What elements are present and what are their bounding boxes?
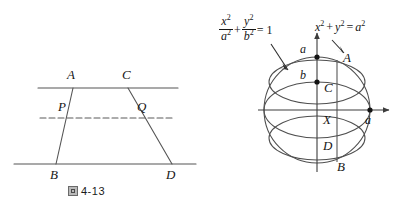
plus-sign-ellipse: + [233, 24, 242, 36]
label-D: D [166, 168, 175, 181]
caption-figure-4-13: 4-13 [68, 185, 105, 197]
label-b: b [300, 69, 306, 81]
label-a-right: a [365, 114, 371, 126]
circle-equation-formula: x2+y2=a2 [314, 20, 366, 33]
circle-eq-plus: + [325, 21, 334, 33]
circle-eq-y: y2 [334, 21, 345, 33]
equals-one-ellipse: = 1 [256, 24, 274, 36]
label-B: B [50, 168, 58, 181]
right-leg-CD [128, 88, 172, 164]
denominator-b2: b2 [242, 30, 256, 44]
circle-eq-a: a2 [354, 21, 366, 33]
label-B-sphere: B [337, 160, 345, 173]
label-D-sphere: D [323, 139, 332, 152]
caption-4-13-text: 4-13 [81, 185, 105, 197]
label-C: C [122, 68, 131, 81]
label-A: A [67, 68, 75, 81]
point-b [314, 79, 319, 84]
label-A-sphere: A [343, 51, 351, 64]
ellipse-equation-formula: x2 a2 + y2 b2 = 1 [219, 16, 274, 45]
figure-4-14: x2 a2 + y2 b2 = 1 x2+y2=a2 a b A C X D B… [201, 0, 402, 217]
label-C-sphere: C [324, 81, 333, 94]
circle-eq-x: x2 [314, 21, 325, 33]
label-Q: Q [137, 100, 146, 113]
circle-eq-equals: = [345, 21, 354, 33]
point-a-top [314, 54, 319, 59]
fraction-y2-over-b2: y2 b2 [242, 15, 256, 44]
denominator-a2: a2 [219, 30, 233, 44]
figure-pair-container: A C P Q B D 4-13 [0, 0, 402, 217]
label-P: P [58, 100, 66, 113]
figure-4-13: A C P Q B D 4-13 [0, 0, 201, 217]
leader-line-ellipse [271, 44, 288, 70]
point-a-right [367, 107, 372, 112]
label-a-top: a [300, 43, 306, 55]
label-X-sphere: X [323, 113, 331, 126]
fraction-x2-over-a2: x2 a2 [219, 15, 233, 44]
cjk-tu-glyph-icon [68, 186, 78, 196]
